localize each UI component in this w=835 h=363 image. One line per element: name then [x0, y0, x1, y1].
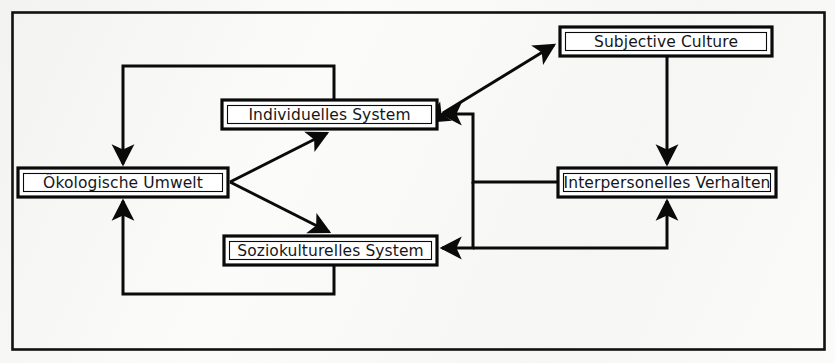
edge-interpersonelles-to-individuelles — [442, 114, 558, 182]
node-oekologische-umwelt[interactable]: Ökologische Umwelt — [18, 168, 228, 197]
node-layer: Subjective Culture Individuelles System … — [18, 27, 776, 265]
edge-interpersonelles-to-soziokulturelles — [442, 182, 473, 248]
node-individuelles-system[interactable]: Individuelles System — [222, 100, 437, 129]
node-label-individuelles-system: Individuelles System — [248, 106, 410, 124]
block-flow-diagram: Subjective Culture Individuelles System … — [0, 0, 835, 363]
edge-individuelles-subjective-culture-bidirectional — [443, 45, 554, 113]
node-interpersonelles-verhalten[interactable]: Interpersonelles Verhalten — [558, 168, 776, 197]
edge-oekologische-to-individuelles — [230, 133, 327, 182]
node-soziokulturelles-system[interactable]: Soziokulturelles System — [224, 236, 437, 265]
node-subjective-culture[interactable]: Subjective Culture — [560, 27, 772, 56]
edge-soziokulturelles-to-interpersonelles — [473, 201, 667, 248]
node-label-oekologische-umwelt: Ökologische Umwelt — [43, 173, 203, 192]
diagram-page: Subjective Culture Individuelles System … — [0, 0, 835, 363]
node-label-subjective-culture: Subjective Culture — [594, 33, 738, 51]
node-label-soziokulturelles-system: Soziokulturelles System — [237, 242, 424, 260]
edge-oekologische-to-soziokulturelles — [230, 182, 329, 232]
node-label-interpersonelles-verhalten: Interpersonelles Verhalten — [564, 174, 771, 192]
